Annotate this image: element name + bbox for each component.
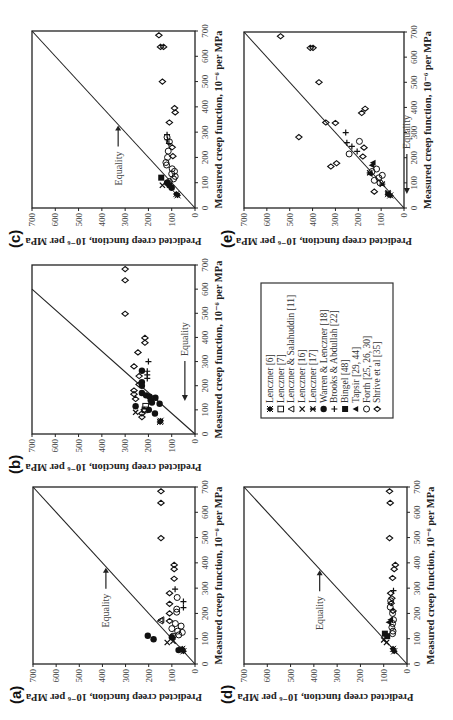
arrow-icon <box>404 188 410 194</box>
x-axis-title: Measured creep function, 10⁻⁶ per MPa <box>425 486 436 665</box>
x-axis-title: Measured creep function, 10⁻⁶ per MPa <box>213 260 224 439</box>
y-axis-title: Predicted creep function, 10⁻⁶ per MPa <box>237 692 414 703</box>
y-tick-label: 100 <box>167 213 177 227</box>
panel-d: 0010010020020030030040040050050060060070… <box>218 480 436 704</box>
x-tick-label: 700 <box>200 24 210 38</box>
x-tick-label: 500 <box>409 75 419 89</box>
x-tick-label: 300 <box>412 581 422 595</box>
x-tick-label: 400 <box>200 556 210 570</box>
panel-b: 0010010020020030030040040050050060060070… <box>6 258 224 474</box>
panel-a: 0010010020020030030040040050050060060070… <box>7 480 224 704</box>
x-tick-label: 100 <box>200 403 210 417</box>
x-tick-label: 0 <box>409 205 419 210</box>
x-tick-label: 200 <box>200 606 210 620</box>
x-tick-label: 700 <box>409 25 419 39</box>
y-tick-label: 700 <box>28 669 38 683</box>
equality-label: Equality <box>113 152 124 186</box>
x-tick-label: 500 <box>412 530 422 544</box>
series-points <box>158 175 164 181</box>
y-tick-label: 100 <box>376 213 386 227</box>
y-tick-label: 500 <box>285 213 295 227</box>
y-tick-label: 500 <box>74 213 84 227</box>
x-tick-label: 200 <box>412 606 422 620</box>
x-tick-label: 300 <box>200 581 210 595</box>
y-tick-label: 700 <box>239 213 249 227</box>
x-tick-label: 600 <box>200 505 210 519</box>
legend-label: Lenczner & Salahuddin [11] <box>286 295 296 403</box>
legend-item: Lenczner [16] <box>297 349 307 411</box>
y-tick-label: 200 <box>143 213 153 227</box>
y-tick-label: 0 <box>190 669 200 674</box>
x-axis-title: Measured creep function, 10⁻⁶ per MPa <box>422 30 433 209</box>
x-tick-label: 500 <box>200 306 210 320</box>
y-tick-label: 100 <box>167 669 177 683</box>
y-tick-label: 300 <box>332 669 342 683</box>
x-tick-label: 0 <box>200 431 210 436</box>
panel-c: 0010010020020030030040040050050060060070… <box>6 24 224 248</box>
y-tick-label: 400 <box>308 213 318 227</box>
x-tick-label: 600 <box>200 49 210 63</box>
x-tick-label: 100 <box>409 176 419 190</box>
x-tick-label: 600 <box>200 282 210 296</box>
y-tick-label: 400 <box>309 669 319 683</box>
y-axis-title: Predicted creep function, 10⁻⁶ per MPa <box>25 462 202 473</box>
legend: Lenczner [6]Lenczner [7]Lenczner & Salah… <box>261 283 393 418</box>
y-tick-label: 0 <box>402 669 412 674</box>
x-tick-label: 500 <box>200 74 210 88</box>
legend-label: Brooks & Abdullah [22] <box>329 310 339 403</box>
y-tick-label: 600 <box>262 669 272 683</box>
legend-item: Lenczner & Salahuddin [11] <box>286 295 296 412</box>
x-tick-label: 0 <box>200 661 210 666</box>
y-tick-label: 700 <box>27 213 37 227</box>
x-tick-label: 400 <box>200 330 210 344</box>
y-tick-label: 300 <box>120 439 130 453</box>
y-tick-label: 500 <box>74 669 84 683</box>
y-tick-label: 700 <box>239 669 249 683</box>
y-tick-label: 100 <box>379 669 389 683</box>
legend-label: Lenczner [16] <box>297 349 307 403</box>
y-tick-label: 100 <box>167 439 177 453</box>
legend-label: Forth [25, 26, 30] <box>362 336 372 403</box>
legend-label: Warren & Lenczner [18] <box>319 310 329 403</box>
y-axis-title: Predicted creep function, 10⁻⁶ per MPa <box>25 236 202 247</box>
x-tick-label: 100 <box>200 175 210 189</box>
y-tick-label: 200 <box>143 439 153 453</box>
y-tick-label: 300 <box>121 669 131 683</box>
legend-item: Shrive et al [35] <box>372 342 382 412</box>
x-tick-label: 200 <box>200 378 210 392</box>
y-tick-label: 400 <box>97 213 107 227</box>
legend-label: Lenczner [17] <box>308 349 318 403</box>
y-tick-label: 200 <box>353 213 363 227</box>
equality-label: Equality <box>179 322 190 356</box>
y-tick-label: 200 <box>144 669 154 683</box>
legend-label: Bingel [48] <box>340 359 350 403</box>
figure-canvas: 0010010020020030030040040050050060060070… <box>0 0 453 720</box>
x-tick-label: 100 <box>200 631 210 645</box>
y-tick-label: 0 <box>190 213 200 218</box>
legend-item: Brooks & Abdullah [22] <box>329 310 339 412</box>
x-axis-title: Measured creep function, 10⁻⁶ per MPa <box>213 30 224 209</box>
panel-e: 0010010020020030030040040050050060060070… <box>218 25 433 248</box>
x-tick-label: 300 <box>200 125 210 139</box>
x-tick-label: 100 <box>412 631 422 645</box>
y-tick-label: 0 <box>399 213 409 218</box>
y-tick-label: 400 <box>97 669 107 683</box>
legend-item: Forth [25, 26, 30] <box>362 336 372 412</box>
legend-label: Lenczner [7] <box>276 354 286 403</box>
panel-label: (e) <box>218 230 235 248</box>
panel-label: (c) <box>6 230 23 248</box>
x-tick-label: 400 <box>412 556 422 570</box>
y-tick-label: 200 <box>355 669 365 683</box>
legend-item: Tapsir [29, 44] <box>351 347 361 412</box>
y-tick-label: 600 <box>50 439 60 453</box>
y-tick-label: 600 <box>50 213 60 227</box>
x-tick-label: 700 <box>412 480 422 494</box>
y-tick-label: 400 <box>97 439 107 453</box>
legend-label: Tapsir [29, 44] <box>351 347 361 403</box>
x-tick-label: 400 <box>409 100 419 114</box>
equality-label: Equality <box>100 594 111 628</box>
plot-area <box>32 265 195 434</box>
x-tick-label: 600 <box>412 505 422 519</box>
x-tick-label: 300 <box>200 354 210 368</box>
x-tick-label: 0 <box>412 661 422 666</box>
